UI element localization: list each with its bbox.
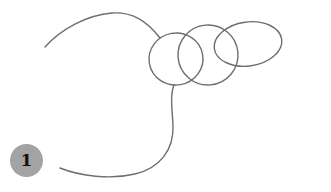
line-sketch-figure: [0, 0, 331, 192]
loop-3-stroke: [211, 17, 284, 70]
loop-2-stroke: [175, 22, 240, 87]
step-number-label: 1: [21, 152, 33, 169]
tail-stroke: [60, 85, 174, 177]
top-arc-stroke: [45, 13, 160, 47]
step-number-badge: 1: [10, 144, 43, 177]
loop-1-stroke: [145, 29, 207, 90]
